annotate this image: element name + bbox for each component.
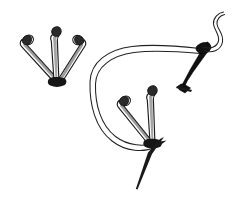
stitch-end-cap <box>52 27 61 37</box>
embroidery-diagram: Fly stitch embroidery diagram three conv… <box>0 0 240 203</box>
stitch-end-cap <box>148 86 157 96</box>
left-cluster-anchor-knot <box>48 77 67 87</box>
stitch-illustration-svg <box>0 0 240 203</box>
